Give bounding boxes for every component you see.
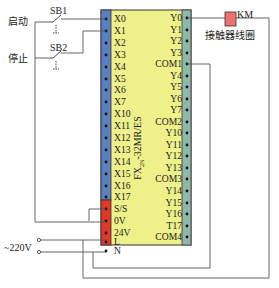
terminal-n: N [114, 245, 121, 256]
terminal-y3: Y3 [124, 47, 182, 58]
terminal-y2: Y2 [124, 35, 182, 46]
switch-sb2-symbol [50, 51, 61, 69]
plc-model-label: FX2N-32MR/ES [132, 116, 145, 179]
switch-sb1-label: 启动 [8, 16, 28, 27]
terminal-y5: Y5 [124, 81, 182, 92]
power-terminal-l [37, 238, 40, 241]
coil-id: KM [237, 9, 253, 20]
output-strip [182, 10, 191, 245]
terminal-com1: COM1 [124, 58, 182, 69]
switch-sb1-symbol [50, 15, 61, 33]
input-strip [101, 10, 111, 200]
terminal-y4: Y4 [124, 70, 182, 81]
terminal-y15: Y15 [124, 197, 182, 208]
power-strip [101, 200, 111, 245]
terminal-y14: Y14 [124, 185, 182, 196]
terminal-com4: COM4 [124, 231, 182, 242]
power-terminal-n [37, 250, 40, 253]
terminal-y7: Y7 [124, 104, 182, 115]
switch-sb1-id: SB1 [50, 5, 67, 16]
terminal-y16: Y16 [124, 208, 182, 219]
terminal-y1: Y1 [124, 24, 182, 35]
power-supply-label: ~220V [4, 242, 32, 253]
terminal-y6: Y6 [124, 93, 182, 104]
switch-sb2-id: SB2 [50, 42, 67, 53]
terminal-y0: Y0 [124, 12, 182, 23]
terminal-t17: T17 [124, 220, 182, 231]
coil-label: 接触器线圈 [205, 30, 255, 41]
km-coil [225, 12, 236, 26]
switch-sb2-label: 停止 [8, 53, 28, 64]
